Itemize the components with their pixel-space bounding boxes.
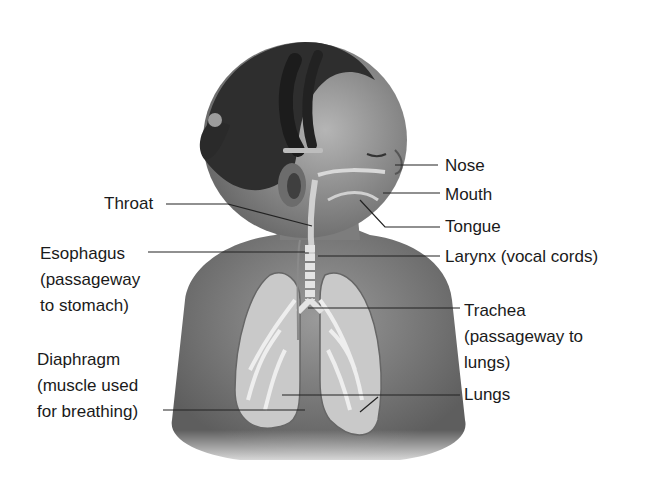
label-nose: Nose — [445, 155, 485, 177]
label-trachea: Trachea (passageway to lungs) — [464, 298, 583, 376]
label-esophagus: Esophagus (passageway to stomach) — [40, 241, 140, 319]
respiratory-diagram: Throat Esophagus (passageway to stomach)… — [0, 0, 657, 491]
label-mouth: Mouth — [445, 184, 492, 206]
label-lungs: Lungs — [464, 384, 510, 406]
label-larynx: Larynx (vocal cords) — [445, 246, 598, 268]
head — [200, 42, 407, 255]
label-throat: Throat — [104, 193, 153, 215]
label-diaphragm: Diaphragm (muscle used for breathing) — [37, 347, 138, 425]
label-tongue: Tongue — [445, 216, 501, 238]
